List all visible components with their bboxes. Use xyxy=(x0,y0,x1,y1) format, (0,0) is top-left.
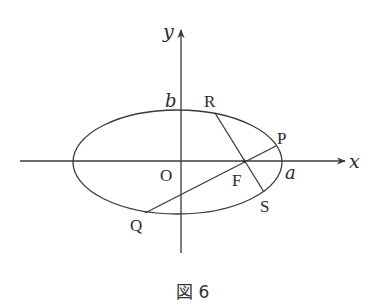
ellipse xyxy=(73,110,282,214)
label-b: b xyxy=(165,90,177,111)
x-axis-label: x xyxy=(349,150,360,172)
label-r: R xyxy=(204,92,216,111)
label-q: Q xyxy=(130,216,142,235)
focus-point xyxy=(242,159,246,163)
label-f: F xyxy=(232,171,241,190)
label-origin: O xyxy=(160,166,172,185)
ellipse-diagram: y x b a O R P F S Q 図 6 xyxy=(0,0,374,307)
label-p: P xyxy=(277,129,286,148)
y-axis-label: y xyxy=(162,20,174,42)
label-s: S xyxy=(260,197,269,216)
figure-caption: 図 6 xyxy=(176,282,209,302)
label-a: a xyxy=(285,162,296,183)
